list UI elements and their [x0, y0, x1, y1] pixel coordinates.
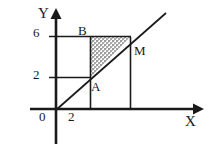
geometry-figure: Y X 6 2 2 0 B M A [0, 0, 214, 152]
y-axis-label: Y [38, 6, 49, 21]
x-axis-label: X [185, 114, 196, 129]
diagonal-line-y-equals-x [56, 13, 166, 110]
y-tick-label-6: 6 [33, 26, 40, 39]
x-tick-label-2: 2 [68, 110, 75, 123]
y-tick-label-2: 2 [33, 68, 40, 81]
origin-label: 0 [39, 110, 46, 123]
point-label-m: M [134, 44, 146, 57]
point-label-b: B [78, 24, 87, 37]
point-label-a: A [91, 80, 100, 93]
shaded-triangle-abm [91, 37, 130, 78]
y-axis-arrowhead [51, 8, 62, 19]
